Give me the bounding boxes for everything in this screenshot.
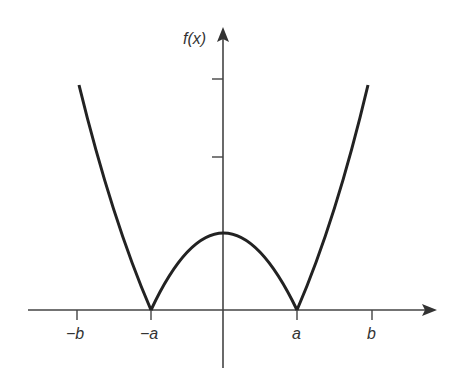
- graph-svg: f(x) −b −a a b: [0, 0, 460, 387]
- middle-arc: [151, 233, 297, 310]
- x-label-neg-b: −b: [66, 325, 84, 342]
- x-label-neg-a: −a: [140, 325, 158, 342]
- right-branch: [297, 85, 368, 310]
- y-axis-label: f(x): [183, 30, 206, 47]
- x-label-b: b: [367, 325, 376, 342]
- left-branch: [79, 85, 151, 310]
- x-label-a: a: [292, 325, 301, 342]
- function-graph: f(x) −b −a a b: [0, 0, 460, 387]
